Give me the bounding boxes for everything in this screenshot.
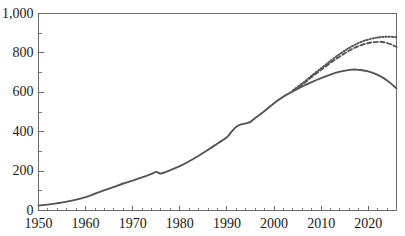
x-axis-tick-label: 1960: [72, 217, 100, 231]
x-axis-tick-label: 1980: [166, 217, 194, 231]
series-line-historical-and-projection-low: [39, 69, 397, 205]
line-chart: [0, 0, 405, 236]
x-axis-tick-label: 1990: [213, 217, 241, 231]
y-axis-tick-label: 600: [0, 85, 34, 99]
x-axis-tick-label: 2010: [307, 217, 335, 231]
x-axis-tick-label: 2000: [260, 217, 288, 231]
y-axis-tick-label: 200: [0, 164, 34, 178]
y-axis-tick-label: 400: [0, 125, 34, 139]
axis-frame: [39, 14, 397, 211]
y-axis-tick-label: 1,000: [0, 7, 34, 21]
series-line-projection-high: [293, 37, 397, 91]
x-axis-tick-label: 2020: [354, 217, 382, 231]
x-axis-tick-label: 1970: [119, 217, 147, 231]
chart-container: 02004006008001,0001950196019701980199020…: [0, 0, 405, 236]
y-axis-tick-label: 800: [0, 46, 34, 60]
x-axis-tick-label: 1950: [25, 217, 53, 231]
